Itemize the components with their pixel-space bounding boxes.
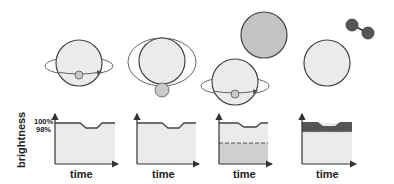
blend-region — [219, 143, 268, 164]
planet — [75, 71, 83, 79]
x-axis-label: time — [70, 168, 93, 180]
panel-blended-binary — [304, 19, 374, 86]
star — [304, 40, 350, 86]
panel-companion-eclipse — [128, 38, 196, 97]
binary-star-b — [362, 27, 374, 39]
x-axis-label: time — [316, 168, 339, 180]
background-star — [241, 12, 287, 58]
panel-background-star-blend — [201, 12, 287, 105]
chart-background-blend: time — [219, 114, 272, 180]
x-axis-label: time — [233, 168, 256, 180]
companion-body — [155, 83, 169, 97]
star — [139, 38, 185, 84]
chart-companion-eclipse: time — [137, 114, 199, 180]
y-axis-label: brightness — [15, 112, 27, 168]
panel-planet-transit — [45, 40, 113, 86]
diagram-canvas: brightness 100% 98% time time time time — [0, 0, 394, 184]
planet — [231, 90, 239, 98]
chart-blended-binary: time — [302, 114, 356, 180]
chart-planet-transit: time — [55, 114, 118, 180]
tick-98: 98% — [36, 125, 51, 134]
x-axis-label: time — [152, 168, 175, 180]
binary-star-a — [346, 19, 358, 31]
